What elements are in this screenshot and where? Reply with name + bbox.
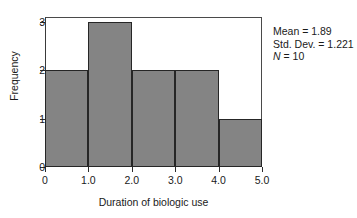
x-tick-label: 2.0 bbox=[112, 174, 152, 186]
stat-std-dev: Std. Dev. = 1.221 bbox=[273, 38, 354, 51]
x-tick-mark bbox=[88, 167, 89, 172]
x-tick-label: 0 bbox=[25, 174, 65, 186]
stat-mean: Mean = 1.89 bbox=[273, 25, 354, 38]
x-tick-label: 5.0 bbox=[242, 174, 282, 186]
histogram-figure: 0123 Frequency 01.02.03.04.05.0 Duration… bbox=[0, 0, 357, 218]
y-tick-label: 2 bbox=[31, 65, 45, 75]
statistics-annotation: Mean = 1.89 Std. Dev. = 1.221 N = 10 bbox=[273, 25, 354, 63]
x-axis-title: Duration of biologic use bbox=[45, 196, 262, 208]
histogram-bar bbox=[175, 70, 218, 167]
stat-sample-size: N = 10 bbox=[273, 50, 354, 63]
y-tick-label: 1 bbox=[31, 114, 45, 124]
x-tick-label: 3.0 bbox=[155, 174, 195, 186]
histogram-bar bbox=[219, 119, 262, 167]
x-tick-label: 4.0 bbox=[199, 174, 239, 186]
x-tick-mark bbox=[219, 167, 220, 172]
bar-series bbox=[45, 17, 262, 167]
stat-n-value: = 10 bbox=[281, 50, 305, 62]
histogram-bar bbox=[45, 70, 88, 167]
stat-n-symbol: N bbox=[273, 50, 281, 62]
y-tick-label: 3 bbox=[31, 17, 45, 27]
x-tick-mark bbox=[262, 167, 263, 172]
histogram-bar bbox=[88, 22, 131, 167]
y-axis-title: Frequency bbox=[8, 31, 20, 121]
histogram-bar bbox=[132, 70, 175, 167]
x-tick-mark bbox=[132, 167, 133, 172]
x-axis-ticks: 01.02.03.04.05.0 bbox=[0, 167, 357, 197]
x-tick-mark bbox=[45, 167, 46, 172]
x-tick-mark bbox=[175, 167, 176, 172]
x-tick-label: 1.0 bbox=[68, 174, 108, 186]
